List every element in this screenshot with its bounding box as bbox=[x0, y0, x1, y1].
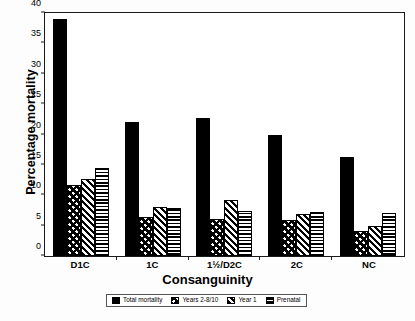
x-tick-label: NC bbox=[333, 259, 405, 270]
bar bbox=[196, 118, 210, 257]
y-axis-title: Percentage mortality bbox=[24, 42, 38, 222]
bar bbox=[354, 231, 368, 257]
bar bbox=[224, 200, 238, 256]
x-axis-title: Consanguinity bbox=[0, 272, 415, 287]
x-tick-label: 1C bbox=[116, 259, 188, 270]
x-tick-label: 1½/D2C bbox=[188, 259, 260, 270]
bar-groups bbox=[45, 13, 404, 256]
bar bbox=[282, 220, 296, 256]
legend-item: Years 2-8/10 bbox=[171, 297, 218, 304]
bar bbox=[382, 213, 396, 256]
chart-legend: Total mortalityYears 2-8/10Year 1Prenata… bbox=[106, 294, 307, 307]
y-tick-label: 35 bbox=[31, 28, 45, 38]
x-tick-label: 2C bbox=[261, 259, 333, 270]
bar bbox=[296, 214, 310, 256]
y-tick-label: 25 bbox=[31, 89, 45, 99]
y-tick-label: 15 bbox=[31, 150, 45, 160]
chart-root: Percentage mortality 0510152025303540 D1… bbox=[0, 0, 415, 321]
plot-inner: 0510152025303540 bbox=[45, 13, 404, 256]
y-tick-label: 20 bbox=[31, 120, 45, 130]
bar bbox=[53, 19, 67, 256]
x-axis-tick-labels: D1C1C1½/D2C2CNC bbox=[44, 259, 405, 270]
bar bbox=[153, 207, 167, 256]
legend-label: Prenatal bbox=[277, 297, 301, 303]
y-tick-label: 10 bbox=[31, 180, 45, 190]
y-tick-label: 5 bbox=[36, 211, 45, 221]
legend-item: Year 1 bbox=[227, 297, 256, 304]
bar bbox=[125, 122, 139, 256]
plot-area: 0510152025303540 bbox=[44, 12, 405, 257]
bar bbox=[67, 185, 81, 256]
bar bbox=[340, 157, 354, 256]
legend-swatch-icon bbox=[227, 297, 235, 304]
bar bbox=[95, 168, 109, 256]
y-tick-label: 30 bbox=[31, 59, 45, 69]
legend-item: Prenatal bbox=[266, 297, 301, 304]
bar bbox=[139, 217, 153, 256]
y-tick-label: 40 bbox=[31, 0, 45, 8]
bar-group bbox=[45, 13, 117, 256]
legend-item: Total mortality bbox=[112, 297, 162, 304]
legend-label: Total mortality bbox=[123, 297, 162, 303]
bar bbox=[268, 135, 282, 257]
legend-swatch-icon bbox=[171, 297, 179, 304]
legend-swatch-icon bbox=[266, 297, 274, 304]
bar bbox=[310, 212, 324, 256]
y-tick-label: 0 bbox=[36, 241, 45, 251]
bar-group bbox=[189, 13, 261, 256]
bar-group bbox=[117, 13, 189, 256]
bar bbox=[238, 211, 252, 256]
bar-group bbox=[332, 13, 404, 256]
bar bbox=[81, 179, 95, 256]
bar bbox=[368, 226, 382, 256]
bar bbox=[167, 208, 181, 256]
x-tick-label: D1C bbox=[44, 259, 116, 270]
bar-group bbox=[260, 13, 332, 256]
legend-label: Years 2-8/10 bbox=[182, 297, 218, 303]
bar bbox=[210, 219, 224, 256]
legend-label: Year 1 bbox=[238, 297, 256, 303]
legend-swatch-icon bbox=[112, 297, 120, 304]
